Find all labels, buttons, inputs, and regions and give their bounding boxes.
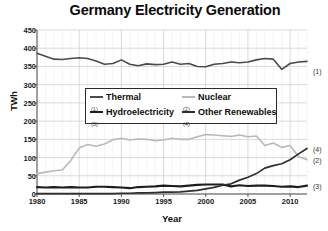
legend-marker-number: (4) xyxy=(183,122,190,128)
legend-swatch-icon: (3) xyxy=(90,111,103,113)
chart-container: Germany Electricity Generation TWh 05010… xyxy=(0,0,328,231)
legend-swatch-icon: (4) xyxy=(182,111,195,113)
legend-item-other-renewables[interactable]: (4)Other Renewables xyxy=(182,107,277,117)
series-tag-hydroelectricity: (3) xyxy=(313,183,322,190)
legend-swatch-icon: (1) xyxy=(90,96,103,98)
legend-item-nuclear[interactable]: (2)Nuclear xyxy=(182,92,231,102)
legend-item-thermal[interactable]: (1)Thermal xyxy=(90,92,141,102)
legend-label: Nuclear xyxy=(198,92,231,102)
legend-swatch-icon: (2) xyxy=(182,96,195,98)
series-tag-other-renewables: (4) xyxy=(313,146,322,153)
legend-item-hydroelectricity[interactable]: (3)Hydroelectricity xyxy=(90,107,174,117)
legend: (1)Thermal(2)Nuclear(3)Hydroelectricity(… xyxy=(85,88,277,124)
legend-label: Thermal xyxy=(106,92,141,102)
legend-label: Hydroelectricity xyxy=(106,107,174,117)
series-tag-thermal: (1) xyxy=(313,68,322,75)
legend-marker-number: (3) xyxy=(91,122,98,128)
series-tag-nuclear: (2) xyxy=(313,157,322,164)
legend-label: Other Renewables xyxy=(198,107,277,117)
x-axis-label: Year xyxy=(37,213,307,224)
